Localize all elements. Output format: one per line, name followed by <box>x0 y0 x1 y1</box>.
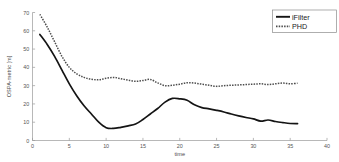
legend: iFilter PHD <box>273 10 337 33</box>
legend-label-phd: PHD <box>292 22 307 31</box>
y-tick-label: 10 <box>23 119 29 125</box>
x-tick-label: 5 <box>68 143 71 149</box>
x-tick-label: 40 <box>324 143 330 149</box>
ospa-metric-line-chart: 0510152025303540 010203040506070 time OS… <box>0 0 339 162</box>
x-axis-ticks: 0510152025303540 <box>31 138 330 149</box>
series-line-phd <box>40 14 298 86</box>
x-tick-label: 25 <box>214 143 220 149</box>
y-tick-label: 30 <box>23 83 29 89</box>
y-tick-label: 70 <box>23 10 29 16</box>
y-tick-label: 0 <box>26 138 29 144</box>
chart-figure: 0510152025303540 010203040506070 time OS… <box>0 0 339 162</box>
data-series <box>40 14 298 128</box>
x-tick-label: 35 <box>287 143 293 149</box>
x-axis-title: time <box>174 151 185 157</box>
x-tick-label: 30 <box>250 143 256 149</box>
y-tick-label: 40 <box>23 64 29 70</box>
legend-label-ifilter: iFilter <box>292 13 310 22</box>
y-tick-label: 50 <box>23 46 29 52</box>
y-axis-title: OSPA-metric [m] <box>6 55 12 97</box>
x-tick-label: 0 <box>31 143 34 149</box>
series-line-ifilter <box>40 34 298 128</box>
y-tick-label: 20 <box>23 101 29 107</box>
y-tick-label: 60 <box>23 28 29 34</box>
x-tick-label: 15 <box>140 143 146 149</box>
y-axis-ticks: 010203040506070 <box>23 10 35 144</box>
x-tick-label: 10 <box>103 143 109 149</box>
x-tick-label: 20 <box>177 143 183 149</box>
